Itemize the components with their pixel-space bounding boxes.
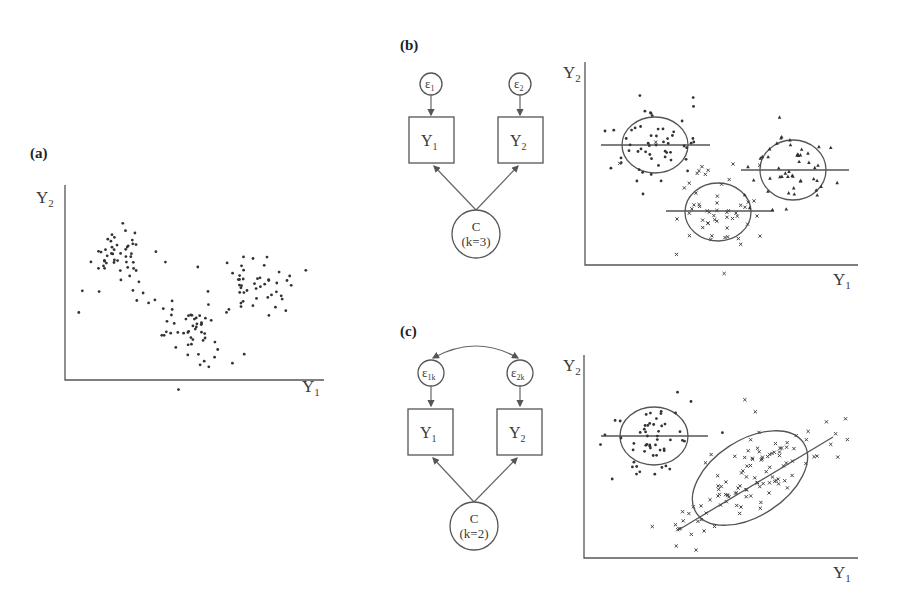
scatter-point xyxy=(651,114,654,117)
scatter-point xyxy=(656,435,659,438)
scatter-point xyxy=(633,461,636,464)
scatter-point xyxy=(252,304,255,307)
scatter-point-x xyxy=(759,507,762,510)
scatter-point xyxy=(111,233,114,236)
scatter-point xyxy=(667,142,670,145)
scatter-point xyxy=(641,171,644,174)
scatter-point-triangle xyxy=(752,178,756,181)
scatter-point xyxy=(263,264,266,267)
scatter-point xyxy=(676,391,679,394)
scatter-point xyxy=(226,262,229,265)
scatter-point xyxy=(228,308,231,311)
scatter-point-x xyxy=(743,206,746,209)
scatter-point xyxy=(660,425,663,428)
scatter-point xyxy=(650,157,653,160)
scatter-point xyxy=(198,314,201,317)
scatter-point xyxy=(243,291,246,294)
panel-a: (a) Y2 Y1 xyxy=(30,145,324,398)
scatter-point-x xyxy=(674,523,677,526)
scatter-point xyxy=(690,400,693,403)
scatter-point xyxy=(200,331,203,334)
panel-a-y-axis-label: Y2 xyxy=(36,188,54,209)
scatter-point-x xyxy=(754,410,757,413)
scatter-point-x xyxy=(767,491,770,494)
scatter-point-x xyxy=(738,484,741,487)
scatter-point-x xyxy=(738,512,741,515)
scatter-point-triangle xyxy=(799,179,803,182)
scatter-point xyxy=(160,334,163,337)
scatter-point xyxy=(692,105,695,108)
scatter-point xyxy=(664,150,667,153)
scatter-point-x xyxy=(696,172,699,175)
scatter-point-x xyxy=(710,453,713,456)
scatter-point-x xyxy=(716,474,719,477)
scatter-point xyxy=(686,170,689,173)
scatter-point xyxy=(121,222,124,225)
figure-canvas: (a) Y2 Y1 (b) ε1 ε2 Y1 Y2 C (k=3) Y2 Y1 xyxy=(0,0,900,606)
scatter-point xyxy=(97,250,100,253)
scatter-point xyxy=(177,388,180,391)
scatter-point xyxy=(119,252,122,255)
scatter-point-x xyxy=(749,464,752,467)
scatter-point xyxy=(661,466,664,469)
scatter-point-triangle xyxy=(792,186,796,189)
scatter-point xyxy=(290,284,293,287)
scatter-point xyxy=(231,362,234,365)
scatter-point xyxy=(644,431,647,434)
scatter-point-x xyxy=(695,548,698,551)
scatter-point-x xyxy=(726,235,729,238)
scatter-point xyxy=(187,343,190,346)
scatter-point-triangle xyxy=(789,143,793,146)
scatter-point xyxy=(267,279,270,282)
scatter-point xyxy=(604,130,607,133)
scatter-point-x xyxy=(651,525,654,528)
scatter-point xyxy=(649,447,652,450)
scatter-point xyxy=(611,478,614,481)
scatter-point-x xyxy=(825,420,828,423)
scatter-point xyxy=(170,314,173,317)
scatter-point xyxy=(280,294,283,297)
scatter-point xyxy=(119,269,122,272)
scatter-point-x xyxy=(844,417,847,420)
panel-c-label: (c) xyxy=(400,323,417,340)
scatter-point-triangle xyxy=(815,179,819,182)
scatter-point xyxy=(644,110,647,113)
scatter-point-x xyxy=(734,212,737,215)
panel-c-plot: Y2 Y1 xyxy=(563,355,858,584)
scatter-point xyxy=(648,153,651,156)
scatter-point xyxy=(286,279,289,282)
scatter-point xyxy=(81,289,84,292)
scatter-point-x xyxy=(701,226,704,229)
scatter-point-x xyxy=(713,525,716,528)
scatter-point xyxy=(659,449,662,452)
panel-b-y-axis-label: Y2 xyxy=(563,63,581,84)
scatter-point-triangle xyxy=(777,166,781,169)
scatter-point-x xyxy=(739,505,742,508)
scatter-point-x xyxy=(720,485,723,488)
scatter-point xyxy=(633,442,636,445)
latent-class-k-c: (k=2) xyxy=(460,526,489,541)
scatter-point-triangle xyxy=(806,151,810,154)
scatter-point-x xyxy=(846,438,849,441)
panel-b-label: (b) xyxy=(400,37,418,54)
scatter-point-triangle xyxy=(766,155,770,158)
scatter-point xyxy=(614,419,617,422)
scatter-point xyxy=(100,251,103,254)
scatter-point xyxy=(242,256,245,259)
scatter-point xyxy=(171,300,174,303)
scatter-point xyxy=(238,274,241,277)
scatter-point-x xyxy=(675,217,678,220)
scatter-point-x xyxy=(681,510,684,513)
scatter-point xyxy=(610,167,613,170)
scatter-point xyxy=(207,303,210,306)
scatter-point xyxy=(652,454,655,457)
scatter-point-x xyxy=(725,216,728,219)
scatter-point xyxy=(237,278,240,281)
scatter-point xyxy=(655,417,658,420)
scatter-point xyxy=(138,280,141,283)
scatter-point xyxy=(105,262,108,265)
scatter-point-x xyxy=(726,226,729,229)
panel-b-x-axis-label: Y1 xyxy=(833,270,851,291)
scatter-point-x xyxy=(807,430,810,433)
scatter-point xyxy=(135,269,138,272)
